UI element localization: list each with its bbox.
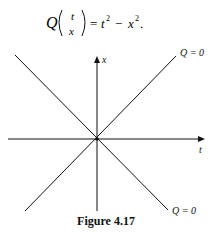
t-axis-arrow-icon [198,136,205,142]
x-axis-label: x [101,54,107,65]
null-line-ascending [25,56,176,211]
x-axis-arrow-icon [94,56,100,63]
origin-dot [95,137,99,141]
null-line-descending [15,55,168,210]
light-cone-diagram: x t Q = 0 Q = 0 [0,0,212,233]
q-zero-label-top: Q = 0 [180,47,204,58]
figure-caption: Figure 4.17 [0,214,212,229]
t-axis-label: t [199,144,202,155]
